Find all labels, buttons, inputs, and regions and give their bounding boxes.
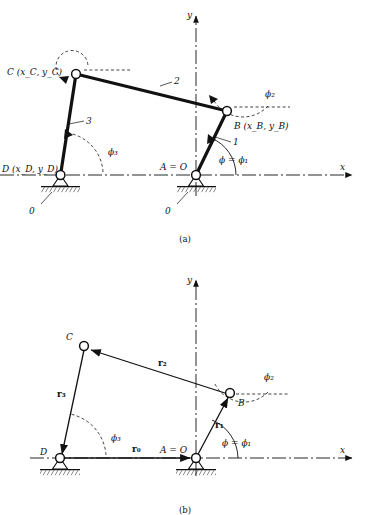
ground-leader-d-a [41,192,52,204]
link-1-bar [196,111,227,175]
x-axis-label-a: x [340,162,345,172]
panel-a-diagram: x y 2 3 1 ϕ₂ ϕ₃ ϕ = ϕ₁ 0 0 [0,0,370,232]
phi1-label-b: ϕ = ϕ₁ [222,438,251,448]
ground-label-right-a: 0 [165,206,171,216]
point-label-a-a: A = O [159,162,188,172]
vector-r1-label: r₁ [215,420,224,430]
phi3-arc-a [68,133,103,172]
vector-r0-label: r₀ [132,444,141,454]
phi3-arc-b [70,414,106,455]
x-axis-label-b: x [340,445,345,455]
panel-b-diagram: x y r₀ r₁ r₂ r₃ ϕ₂ ϕ₃ ϕ = ϕ₁ C B D A = O [0,258,370,511]
link-3-leader [69,121,84,124]
vector-r2-label: r₂ [158,358,167,368]
phi3-label-b: ϕ₃ [111,433,121,443]
joint-a-b [192,454,201,463]
y-axis-label-b: y [186,275,193,285]
vector-r3 [62,350,84,454]
caption-a: (a) [0,234,370,244]
phi3-label-a: ϕ₃ [108,147,118,157]
vector-r2 [91,350,228,394]
c-arc-arrow [59,76,69,84]
link-2-leader [160,82,172,86]
joint-c-b [80,342,89,351]
ground-label-left-a: 0 [29,206,35,216]
phi1-label-a: ϕ = ϕ₁ [219,155,248,165]
ground-leader-a-a [177,192,188,204]
link-3-bar [61,74,77,175]
point-label-c-b: C [66,332,73,342]
caption-b: (b) [0,505,370,515]
point-label-d-a: D (x_D, y_D) [1,164,59,175]
joint-a-a [192,171,201,180]
joint-b-a [223,107,232,116]
point-label-a-b: A = O [159,445,188,455]
link-3-label: 3 [86,116,92,126]
link-2-label: 2 [173,76,180,86]
joint-b-b [226,389,235,398]
joint-d-b [56,454,65,463]
link-1-label: 1 [233,137,239,147]
phi2-label-b: ϕ₂ [264,372,274,382]
point-label-b-a: B (x_B, y_B) [233,121,289,132]
phi2-arrow-a [209,95,218,104]
vector-r3-label: r₃ [57,389,66,399]
point-label-c-a: C (x_C, y_C) [7,67,63,78]
joint-c-a [72,70,81,79]
point-label-b-b: B [237,398,245,408]
phi2-label-a: ϕ₂ [265,89,275,99]
y-axis-label-a: y [186,10,193,20]
point-label-d-b: D [39,447,47,457]
link-2-bar [76,74,227,111]
